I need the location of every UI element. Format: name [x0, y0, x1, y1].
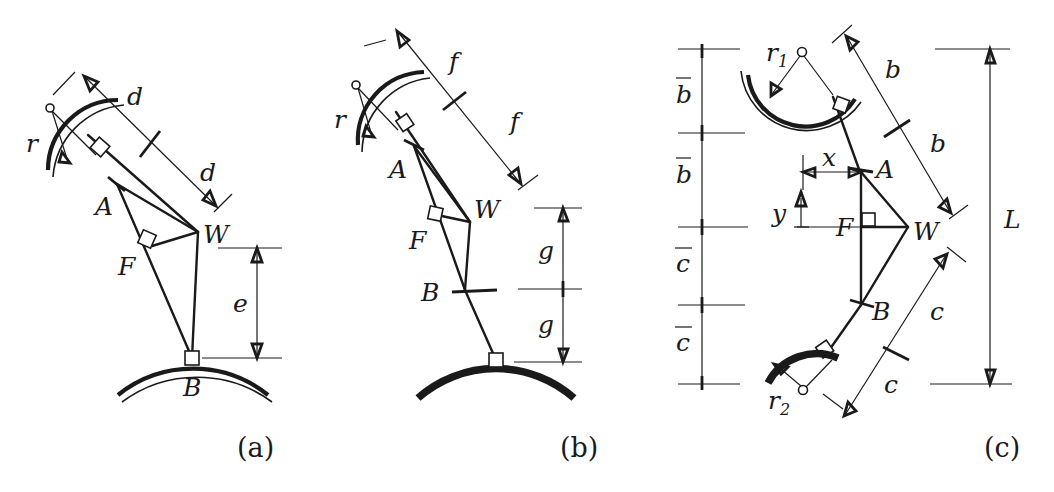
panel-a-dim-d: d d: [53, 72, 232, 212]
panel-c-ladder-label-1: b: [676, 80, 692, 109]
panel-c-dim-b-lower-label: b: [930, 129, 946, 158]
panel-b-dim-f-upper-label: f: [447, 47, 462, 76]
panel-c-dim-y-label: y: [771, 199, 787, 228]
panel-a-radius-arrow: [59, 152, 70, 163]
panel-b-label-b: B: [420, 278, 439, 307]
panel-a-link-a-w: [117, 184, 198, 232]
panel-b-label-a: A: [387, 155, 407, 184]
panel-c-ladder: b b c c: [675, 44, 748, 390]
panel-c-caption: (c): [984, 432, 1020, 463]
panel-c-ladder-label-4: c: [676, 328, 690, 357]
panel-a-label-f: F: [117, 252, 137, 281]
panel-c-ladder-label-2: b: [676, 160, 692, 189]
panel-c-dim-c-ext-start: [947, 247, 966, 262]
panel-c-dim-L: L: [930, 49, 1021, 384]
panel-b-dim-g: g g: [514, 208, 582, 362]
panel-c-r1-line-2: [804, 56, 833, 95]
panel-c-label-a: A: [874, 155, 894, 184]
panel-a-right-angle-b: [185, 351, 199, 365]
panel-a-label-w: W: [203, 220, 231, 249]
panel-c-dim-b-upper-label: b: [885, 55, 901, 84]
panel-a: r A F W B d d: [26, 72, 282, 463]
panel-c-dim-b-arrow-end: [939, 199, 951, 213]
panel-c-ladder-label-2-group: b: [676, 158, 692, 189]
panel-c-ladder-label-3: c: [676, 249, 690, 278]
panel-b: r A F W B f f: [334, 31, 598, 463]
panel-c-dim-c: c c: [823, 247, 966, 416]
panel-c-ladder-label-4-group: c: [675, 327, 692, 357]
panel-a-dim-e-label: e: [233, 289, 248, 318]
panel-c: b b c c r1: [675, 25, 1021, 463]
panel-b-right-angle-f: [428, 206, 443, 221]
panel-c-r1-label: r1: [766, 38, 788, 71]
panel-b-link-w-b: [465, 222, 470, 290]
panel-b-caption: (b): [560, 432, 598, 463]
panel-c-ladder-label-3-group: c: [675, 248, 692, 278]
panel-c-dim-c-ext-end: [823, 394, 843, 409]
panel-a-dim-e: e: [202, 248, 282, 358]
panel-a-dim-d-lower-label: d: [200, 158, 216, 187]
panel-a-label-b: B: [182, 373, 201, 402]
panel-c-dim-c-lower-label: c: [884, 370, 898, 399]
panel-b-dim-g-upper-label: g: [538, 236, 554, 265]
panel-c-r2-line-2: [806, 360, 832, 387]
panel-b-label-w: W: [474, 195, 502, 224]
panel-c-dim-c-arrow-end: [844, 402, 856, 416]
panel-b-pivot-center: [352, 81, 360, 89]
panel-a-caption: (a): [237, 432, 274, 463]
panel-a-dim-d-arrow-end: [203, 191, 216, 206]
panel-b-label-f: F: [408, 226, 428, 255]
panel-b-dim-f-mid-tick: [443, 92, 466, 110]
panel-b-upper-arc: [358, 72, 430, 152]
panel-c-dim-x-label: x: [822, 143, 836, 172]
panel-b-lower-arc: [418, 369, 574, 398]
panel-c-dim-b-arrow-start: [846, 36, 858, 50]
panel-c-link-b-w: [861, 227, 908, 305]
panel-c-right-angle-f: [862, 213, 875, 226]
panel-c-dim-c-arrow-start: [935, 254, 947, 268]
panel-b-joint-b-tick: [452, 290, 497, 292]
panel-a-link-w-b: [192, 232, 198, 358]
panel-c-ladder-label-1-group: b: [676, 78, 692, 109]
panel-b-dim-f-line: [398, 32, 520, 183]
panel-b-radius-label: r: [334, 105, 348, 134]
panel-c-r2-label: r2: [768, 386, 790, 419]
panel-a-radius-label: r: [26, 129, 40, 158]
mechanism-figure: r A F W B d d: [0, 0, 1054, 492]
panel-a-dim-d-upper-label: d: [127, 82, 143, 111]
panel-b-radius-arrow: [363, 126, 374, 137]
panel-c-dim-c-mid-tick: [883, 347, 909, 360]
panel-a-dim-d-ext-start: [53, 72, 75, 95]
panel-a-link-w-f: [152, 232, 198, 246]
panel-b-dim-f-lower-label: f: [508, 107, 523, 136]
panel-c-pivot-top: [798, 48, 807, 57]
panel-c-dim-b: b b: [832, 25, 968, 219]
panel-a-label-a: A: [93, 192, 113, 221]
panel-a-pivot-center: [46, 104, 54, 112]
panel-b-dim-g-lower-label: g: [538, 310, 554, 339]
panel-c-dim-L-label: L: [1003, 205, 1021, 234]
panel-a-upper-arc: [48, 100, 124, 177]
panel-a-dim-d-ext-end: [214, 194, 232, 212]
panel-b-link-b-ground: [465, 290, 496, 360]
panel-b-dim-f-ext-start: [364, 40, 386, 46]
panel-c-label-w: W: [913, 217, 941, 246]
panel-c-dim-c-upper-label: c: [930, 297, 944, 326]
panel-b-right-angle-ground: [489, 353, 503, 367]
panel-c-label-b: B: [871, 297, 890, 326]
